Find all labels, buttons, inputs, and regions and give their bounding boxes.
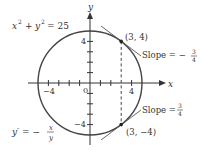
tick-label-y-4: 4 xyxy=(81,37,86,46)
tick-label-x-4: 4 xyxy=(129,87,134,96)
circle-tangent-diagram: y x 0 −4 4 4 −4 x 2 + y 2 = 25 y′ = − x … xyxy=(0,0,203,152)
tick-label-y-neg4: −4 xyxy=(74,120,86,129)
svg-text:4: 4 xyxy=(178,110,182,117)
svg-text:3: 3 xyxy=(178,102,182,109)
point-label-lower: (3, −4) xyxy=(126,127,156,137)
svg-text:Slope = −: Slope = − xyxy=(142,50,186,60)
y-axis-label: y xyxy=(87,2,94,12)
point-3-neg4 xyxy=(119,123,123,127)
svg-text:x: x xyxy=(49,124,53,132)
point-label-upper: (3, 4) xyxy=(125,32,148,42)
svg-text:y: y xyxy=(48,134,54,142)
svg-text:y: y xyxy=(34,21,41,31)
origin-label: 0 xyxy=(83,86,88,95)
svg-text:3: 3 xyxy=(192,48,196,55)
slope-label-upper: Slope = − 3 4 xyxy=(142,48,197,63)
derivative-equation: y′ = − x y xyxy=(11,124,54,142)
svg-text:4: 4 xyxy=(192,56,196,63)
svg-text:= 25: = 25 xyxy=(47,21,69,31)
circle-equation: x 2 + y 2 = 25 xyxy=(12,18,69,31)
y-axis-arrow-icon xyxy=(87,12,93,19)
x-axis-arrow-icon xyxy=(159,80,166,86)
svg-text:2: 2 xyxy=(18,18,22,25)
tick-label-x-neg4: −4 xyxy=(43,87,55,96)
slope-label-lower: Slope = 3 4 xyxy=(142,102,183,117)
svg-text:2: 2 xyxy=(41,18,45,25)
svg-text:x: x xyxy=(12,21,17,31)
point-3-4 xyxy=(119,40,123,44)
svg-text:y′ = −: y′ = − xyxy=(11,127,40,137)
svg-text:+: + xyxy=(25,21,33,31)
x-axis-label: x xyxy=(168,79,173,89)
svg-text:Slope =: Slope = xyxy=(142,105,176,115)
